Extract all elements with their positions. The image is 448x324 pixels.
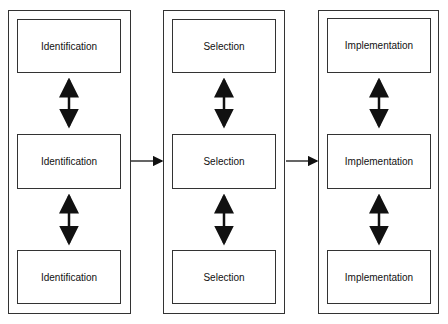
connector-layer [0,0,448,324]
